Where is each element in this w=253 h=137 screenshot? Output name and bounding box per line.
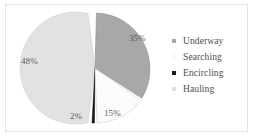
legend-label-hauling: Hauling [183,84,214,94]
legend-swatch-searching [172,55,176,59]
legend-item-searching[interactable]: Searching [171,49,249,65]
legend-swatch-encircling [172,71,176,75]
legend-swatch-underway [172,39,176,43]
legend-label-searching: Searching [183,52,222,62]
pie-plot-area [40,12,150,124]
pie-svg [40,12,150,124]
pie-slice-hauling[interactable] [20,12,95,124]
legend-item-encircling[interactable]: Encircling [171,65,249,81]
legend-item-hauling[interactable]: Hauling [171,81,249,97]
data-label-hauling: 48% [21,56,38,66]
legend-label-underway: Underway [183,36,223,46]
pie-chart-figure: 35% 15% 2% 48% Underway Searching Encirc… [0,0,253,137]
data-label-underway: 35% [129,33,146,43]
chart-legend: Underway Searching Encircling Hauling [171,33,249,97]
legend-label-encircling: Encircling [183,68,224,78]
data-label-encircling: 2% [70,111,82,121]
legend-swatch-hauling [172,87,176,91]
legend-item-underway[interactable]: Underway [171,33,249,49]
data-label-searching: 15% [104,108,121,118]
